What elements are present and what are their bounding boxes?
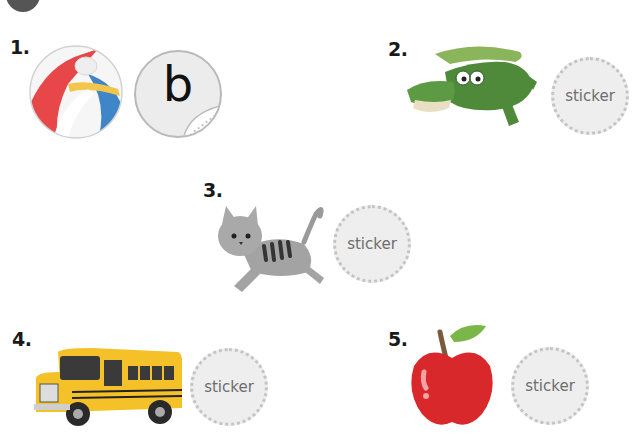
school-bus-icon: [32, 346, 184, 428]
item-number: 3.: [203, 179, 222, 201]
beach-ball-icon: [28, 44, 124, 140]
sticker-label: sticker: [565, 87, 615, 105]
item-number: 4.: [12, 328, 31, 350]
sticker-label: sticker: [204, 378, 254, 396]
cat-icon: [212, 202, 330, 298]
crocodile-icon: [405, 42, 545, 130]
apple-icon: [408, 322, 498, 432]
sticker-slot[interactable]: sticker: [333, 205, 411, 283]
placed-sticker[interactable]: b: [134, 50, 222, 138]
item-number: 1.: [10, 36, 29, 58]
peel-corner-icon: [180, 100, 222, 138]
sticker-label: sticker: [347, 235, 397, 253]
sticker-slot[interactable]: sticker: [511, 347, 589, 425]
sticker-slot[interactable]: sticker: [551, 57, 629, 135]
item-number: 5.: [388, 328, 407, 350]
sticker-slot[interactable]: sticker: [190, 348, 268, 426]
sticker-label: sticker: [525, 377, 575, 395]
section-badge: [6, 0, 40, 12]
